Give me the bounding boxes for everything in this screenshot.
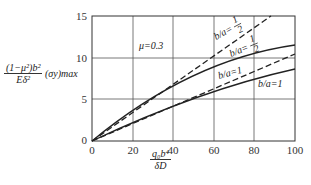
- x-tick-80: 80: [249, 144, 261, 156]
- y-label-numerator: (1−μ²)b²: [4, 62, 42, 74]
- label-b-a-half-dashed: b/a= 1 2: [209, 13, 246, 47]
- label-b-a-one-solid: b/a=1: [258, 78, 283, 89]
- y-label-denominator: Eδ²: [4, 74, 42, 85]
- x-tick-0: 0: [89, 144, 95, 156]
- y-label-tail: (σy)max: [45, 68, 78, 79]
- x-axis-fraction: q₀b⁴ δD: [150, 148, 171, 171]
- y-axis-label: (1−μ²)b² Eδ² (σy)max: [4, 62, 116, 85]
- label-den: 2: [252, 42, 261, 54]
- series-b-a-half-dashed: [92, 16, 271, 141]
- label-text: b/a=: [212, 23, 234, 42]
- x-tick-labels: 0 20 40 60 80 100: [89, 144, 304, 156]
- label-den: 2: [235, 23, 245, 35]
- mu-annotation: μ=0.3: [138, 40, 163, 51]
- x-label-denominator: δD: [150, 160, 171, 171]
- x-axis-label: q₀b⁴ δD: [150, 148, 171, 171]
- x-tick-60: 60: [209, 144, 221, 156]
- x-tick-100: 100: [287, 144, 304, 156]
- y-tick-15: 15: [76, 10, 88, 22]
- label-b-a-one-dashed: b/a=1: [217, 64, 244, 81]
- x-tick-20: 20: [128, 144, 140, 156]
- y-tick-0: 0: [82, 134, 88, 146]
- y-axis-fraction: (1−μ²)b² Eδ²: [4, 62, 42, 85]
- label-b-a-half-solid: b/a= 1 2: [225, 32, 261, 64]
- series-b-a-one-dashed: [92, 54, 295, 141]
- y-tick-5: 5: [82, 93, 88, 105]
- x-label-numerator: q₀b⁴: [150, 148, 171, 160]
